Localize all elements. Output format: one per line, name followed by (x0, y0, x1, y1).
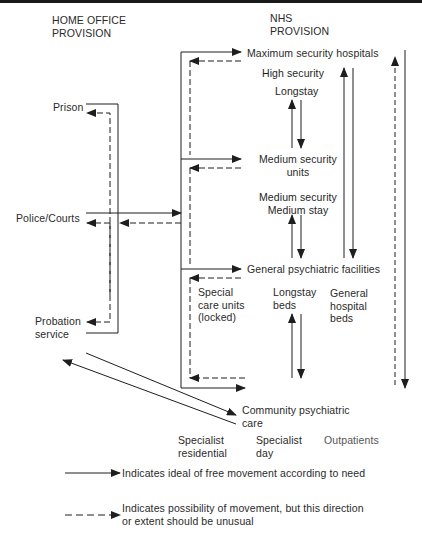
general-hospital-line3: beds (330, 312, 368, 325)
specialist-residential-line1: Specialist (178, 434, 227, 447)
node-probation: Probation service (35, 315, 81, 340)
specialist-day-line1: Specialist (256, 434, 302, 447)
nhs-header-line2: PROVISION (270, 25, 329, 38)
home-office-header-line2: PROVISION (52, 27, 126, 40)
special-care-line3: (locked) (198, 311, 245, 324)
probation-line2: service (35, 328, 81, 341)
home-office-header-line1: HOME OFFICE (52, 14, 126, 27)
nhs-header-line1: NHS (270, 12, 329, 25)
label-medium-security-stay: Medium security Medium stay (253, 191, 343, 216)
node-general-psychiatric-facilities: General psychiatric facilities (247, 263, 380, 276)
medium-security-line: Medium security (253, 191, 343, 204)
arrow-probation-to-community (86, 353, 236, 415)
general-hospital-line1: General (330, 287, 368, 300)
legend-dashed-text: Indicates possibility of movement, but t… (122, 502, 364, 527)
special-care-line1: Special (198, 286, 245, 299)
home-office-bracket-solid (86, 104, 118, 333)
node-community-psychiatric-care: Community psychiatric care (242, 404, 350, 429)
legend-dashed-line2: or extent should be unusual (122, 515, 364, 528)
nhs-header: NHS PROVISION (270, 12, 329, 37)
label-longstay-beds: Longstay beds (273, 286, 316, 311)
probation-line1: Probation (35, 315, 81, 328)
community-line1: Community psychiatric (242, 404, 350, 417)
specialist-residential-line2: residential (178, 447, 227, 460)
medium-stay-line: Medium stay (253, 204, 343, 217)
general-hospital-line2: hospital (330, 300, 368, 313)
label-specialist-residential: Specialist residential (178, 434, 227, 459)
node-prison: Prison (53, 101, 83, 114)
node-police-courts: Police/Courts (16, 212, 80, 225)
legend-dashed-line1: Indicates possibility of movement, but t… (122, 502, 364, 515)
community-line2: care (242, 417, 350, 430)
dashed-to-probation (87, 223, 110, 322)
label-special-care-units: Special care units (locked) (198, 286, 245, 324)
specialist-day-line2: day (256, 447, 302, 460)
label-general-hospital-beds: General hospital beds (330, 287, 368, 325)
label-high-security: High security (262, 67, 324, 80)
label-outpatients: Outpatients (324, 434, 379, 447)
medium-units-line1: Medium security (253, 153, 343, 166)
node-medium-security-units: Medium security units (253, 153, 343, 178)
label-specialist-day: Specialist day (256, 434, 302, 459)
dashed-to-prison (87, 113, 110, 295)
home-office-header: HOME OFFICE PROVISION (52, 14, 126, 39)
legend-solid-text: Indicates ideal of free movement accordi… (122, 467, 365, 480)
medium-units-line2: units (253, 166, 343, 179)
label-longstay: Longstay (275, 85, 318, 98)
node-maximum-security-hospitals: Maximum security hospitals (247, 47, 379, 60)
longstay-beds-line2: beds (273, 299, 316, 312)
special-care-line2: care units (198, 299, 245, 312)
longstay-beds-line1: Longstay (273, 286, 316, 299)
arrow-community-to-probation (63, 360, 236, 424)
